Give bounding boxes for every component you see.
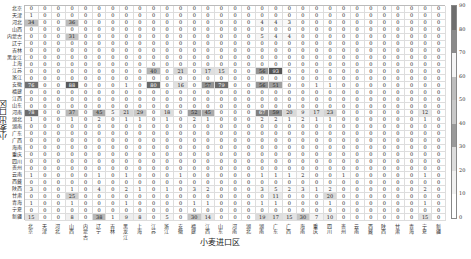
heatmap-cell: 0	[79, 207, 93, 214]
y-tick-label: 北京	[0, 6, 22, 11]
heatmap-cell: 9	[120, 214, 134, 221]
heatmap-cell: 19	[256, 214, 270, 221]
x-tick-label: 河南	[231, 224, 239, 235]
x-tick-label: 黑龙江	[122, 224, 130, 240]
heatmap-cell: 0	[215, 214, 229, 221]
heatmap-cell: 0	[215, 207, 229, 214]
heatmap-cell: 0	[52, 214, 66, 221]
heatmap-cell: 0	[202, 207, 216, 214]
x-tick-label: 湖南	[258, 224, 266, 235]
x-tick-label: 浙江	[163, 224, 171, 235]
colorbar-tick-label: 20	[459, 168, 465, 173]
x-tick-label: 河北	[54, 224, 62, 235]
heatmap-cell: 17	[269, 214, 283, 221]
heatmap-cell: 0	[432, 214, 446, 221]
heatmap-cell: 8	[134, 214, 148, 221]
y-tick-label: 重庆	[0, 152, 22, 157]
heatmap-cell: 0	[174, 207, 188, 214]
y-tick-label: 四川	[0, 159, 22, 164]
y-tick-label: 浙江	[0, 75, 22, 80]
x-tick-label: 吉林	[108, 224, 116, 235]
colorbar-segment	[452, 53, 456, 77]
heatmap-cell: 0	[79, 214, 93, 221]
x-tick-label: 福建	[190, 224, 198, 235]
y-tick-label: 青海	[0, 200, 22, 205]
heatmap-cell: 0	[39, 214, 53, 221]
y-tick-label: 甘肃	[0, 193, 22, 198]
heatmap-cell: 15	[419, 214, 433, 221]
y-tick-label: 福建	[0, 89, 22, 94]
heatmap-cell: 0	[229, 207, 243, 214]
x-tick-label: 广西	[285, 224, 293, 235]
y-tick-label: 上海	[0, 61, 22, 66]
heatmap-cell: 0	[93, 207, 107, 214]
heatmap-cell: 0	[378, 214, 392, 221]
x-tick-label: 安徽	[176, 224, 184, 235]
colorbar-tick-label: 30	[459, 144, 465, 149]
heatmap-cell: 30	[188, 214, 202, 221]
y-tick-label: 黑龙江	[0, 55, 22, 60]
colorbar-tick-label: 80	[459, 27, 465, 32]
heatmap-cell: 0	[337, 207, 351, 214]
heatmap-cell: 0	[405, 214, 419, 221]
x-tick-label: 云南	[353, 224, 361, 235]
x-tick-label: 海南	[298, 224, 306, 235]
colorbar-segment	[452, 124, 456, 148]
y-tick-label: 江苏	[0, 68, 22, 73]
heatmap-cell: 0	[25, 207, 39, 214]
heatmap-cell: 0	[283, 207, 297, 214]
x-tick-label: 山西	[68, 224, 76, 235]
heatmap-cell: 0	[365, 214, 379, 221]
heatmap-cell: 1	[106, 214, 120, 221]
colorbar-segment	[452, 147, 456, 171]
x-tick-label: 上海	[135, 224, 143, 235]
heatmap-cell: 0	[147, 214, 161, 221]
x-tick-label: 新疆	[434, 224, 442, 235]
y-tick-label: 宁夏	[0, 207, 22, 212]
heatmap-chart: 0000000000000000000000000000000100000000…	[0, 0, 471, 259]
x-tick-label: 北京	[27, 224, 35, 235]
heatmap-cell: 8	[66, 214, 80, 221]
colorbar-segment	[452, 100, 456, 124]
y-tick-label: 辽宁	[0, 41, 22, 46]
heatmap-cell: 14	[202, 214, 216, 221]
y-axis-title: 小麦出口区	[0, 100, 9, 140]
heatmap-cell: 0	[134, 207, 148, 214]
heatmap-cell: 0	[310, 207, 324, 214]
heatmap-cell: 30	[297, 214, 311, 221]
colorbar-tick-label: 60	[459, 74, 465, 79]
x-tick-label: 江苏	[149, 224, 157, 235]
colorbar	[451, 5, 457, 219]
x-tick-label: 辽宁	[95, 224, 103, 235]
heatmap-cell: 0	[52, 207, 66, 214]
y-tick-label: 吉林	[0, 48, 22, 53]
y-tick-label: 内蒙古	[0, 34, 22, 39]
heatmap-cell: 15	[283, 214, 297, 221]
x-tick-label: 山东	[217, 224, 225, 235]
x-tick-label: 陕西	[380, 224, 388, 235]
heatmap-cell: 0	[174, 214, 188, 221]
heatmap-cell: 0	[242, 214, 256, 221]
heatmap-cell: 0	[297, 207, 311, 214]
colorbar-segment	[452, 171, 456, 195]
colorbar-segment	[452, 77, 456, 101]
heatmap-cell: 7	[310, 214, 324, 221]
y-tick-label: 新疆	[0, 214, 22, 219]
heatmap-cell: 0	[351, 207, 365, 214]
heatmap-cell: 15	[25, 214, 39, 221]
heatmap-grid: 0000000000000000000000000000000100000000…	[24, 5, 445, 220]
heatmap-cell: 0	[161, 207, 175, 214]
heatmap-cell: 0	[351, 214, 365, 221]
heatmap-cell: 0	[256, 207, 270, 214]
y-tick-label: 安徽	[0, 82, 22, 87]
y-tick-label: 海南	[0, 145, 22, 150]
heatmap-cell: 0	[66, 207, 80, 214]
heatmap-cell: 0	[39, 207, 53, 214]
x-tick-label: 内蒙古	[81, 224, 89, 240]
y-tick-label: 贵州	[0, 165, 22, 170]
heatmap-cell: 0	[419, 207, 433, 214]
heatmap-cell: 0	[147, 207, 161, 214]
y-tick-label: 河北	[0, 20, 22, 25]
x-tick-label: 重庆	[312, 224, 320, 235]
x-tick-label: 西藏	[366, 224, 374, 235]
